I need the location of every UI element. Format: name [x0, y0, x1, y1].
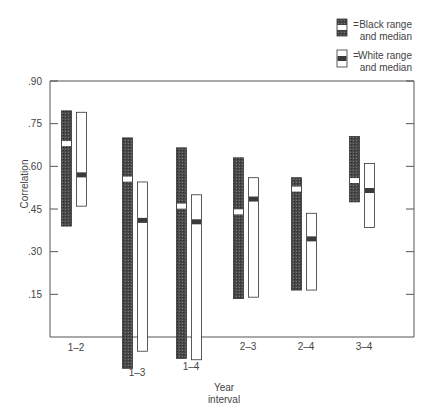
- legend-label-line2: and median: [360, 31, 412, 42]
- black-range-bar: [62, 111, 72, 226]
- black-range-bar: [292, 178, 302, 290]
- black-median-mark: [234, 209, 243, 214]
- white-median-mark: [192, 219, 201, 224]
- legend-label-line1: White range: [358, 50, 412, 61]
- white-median-mark: [249, 197, 258, 202]
- black-range-bar: [350, 136, 360, 201]
- white-median-mark: [307, 236, 316, 241]
- x-category-label: 1–2: [68, 342, 85, 353]
- legend-equals: =: [353, 19, 359, 30]
- white-range-bar: [365, 163, 375, 227]
- white-median-mark: [138, 218, 147, 223]
- x-category-label: 3–4: [356, 341, 373, 352]
- black-range-bar: [123, 138, 133, 368]
- y-tick-label: .60: [28, 161, 42, 172]
- legend-median-mark: [338, 25, 347, 30]
- legend-median-mark: [338, 56, 347, 61]
- y-tick-label: .90: [28, 76, 42, 87]
- x-category-label: 2–3: [240, 341, 257, 352]
- black-median-mark: [350, 178, 359, 183]
- x-category-label: 1–3: [129, 367, 146, 378]
- y-tick-label: .45: [28, 204, 42, 215]
- black-median-mark: [292, 187, 301, 192]
- white-range-bar: [138, 182, 148, 351]
- y-tick-label: .75: [28, 118, 42, 129]
- bars: [62, 111, 375, 368]
- x-axis-title-line2: interval: [208, 394, 240, 405]
- x-axis-title-line1: Year: [214, 382, 235, 393]
- labels: 1–21–31–42–32–43–4Yearinterval: [68, 341, 373, 405]
- y-tick-label: .30: [28, 246, 42, 257]
- y-tick-label: .15: [28, 289, 42, 300]
- black-range-bar: [177, 148, 187, 358]
- x-category-label: 1–4: [183, 361, 200, 372]
- white-median-mark: [365, 188, 374, 193]
- legend-label-line2: and median: [360, 62, 412, 73]
- white-range-bar: [307, 213, 317, 290]
- black-median-mark: [62, 141, 71, 146]
- legend-label-line1: Black range: [359, 19, 412, 30]
- legend: =Black rangeand median=White rangeand me…: [337, 19, 412, 73]
- white-range-bar: [249, 178, 259, 297]
- black-median-mark: [177, 204, 186, 209]
- range-chart: .15.30.45.60.75.90Correlation 1–21–31–42…: [0, 0, 433, 418]
- x-category-label: 2–4: [298, 341, 315, 352]
- y-axis-title: Correlation: [19, 160, 30, 209]
- white-range-bar: [77, 112, 87, 206]
- white-median-mark: [77, 172, 86, 177]
- black-median-mark: [123, 177, 132, 182]
- black-range-bar: [234, 158, 244, 299]
